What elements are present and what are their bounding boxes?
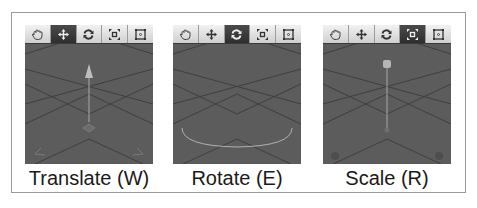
rect-transform-icon [134, 28, 147, 41]
hand-tool-button[interactable] [173, 25, 199, 43]
scale-gizmo-scene [323, 44, 451, 164]
transform-toolbar [25, 25, 153, 44]
hand-tool-button[interactable] [25, 25, 51, 43]
rotate-arrows-icon [82, 28, 95, 41]
scale-caption: Scale (R) [312, 166, 462, 190]
transform-toolbar [173, 25, 301, 44]
rect-transform-icon [282, 28, 295, 41]
rect-tool-button[interactable] [426, 25, 451, 43]
scale-icon [406, 28, 419, 41]
scale-icon [108, 28, 121, 41]
scale-gizmo[interactable] [331, 60, 443, 160]
rotate-gizmo[interactable] [182, 128, 292, 147]
move-arrows-icon [355, 28, 368, 41]
move-arrows-icon [205, 28, 218, 41]
translate-gizmo[interactable] [35, 64, 143, 155]
rotate-tool-button[interactable] [77, 25, 103, 43]
rotate-caption: Rotate (E) [162, 166, 312, 190]
translate-caption: Translate (W) [14, 166, 164, 190]
scale-tool-button[interactable] [400, 25, 426, 43]
scale-viewport-panel [323, 25, 451, 164]
move-tool-button[interactable] [349, 25, 375, 43]
hand-icon [31, 28, 44, 41]
scale-tool-button[interactable] [102, 25, 128, 43]
scale-tool-button[interactable] [250, 25, 276, 43]
scene-viewport[interactable] [323, 44, 451, 164]
scale-icon [256, 28, 269, 41]
rotate-arrows-icon [230, 28, 243, 41]
rotate-viewport-panel [173, 25, 301, 164]
transform-toolbar [323, 25, 451, 44]
scene-viewport[interactable] [25, 44, 153, 164]
move-arrows-icon [57, 28, 70, 41]
ground-grid [173, 44, 301, 164]
move-tool-button[interactable] [199, 25, 225, 43]
rect-tool-button[interactable] [276, 25, 301, 43]
hand-tool-button[interactable] [323, 25, 349, 43]
rotate-gizmo-scene [173, 44, 301, 164]
rotate-arrows-icon [380, 28, 393, 41]
rotate-tool-button[interactable] [375, 25, 401, 43]
hand-icon [329, 28, 342, 41]
rotate-tool-button[interactable] [225, 25, 251, 43]
rect-transform-icon [432, 28, 445, 41]
rect-tool-button[interactable] [128, 25, 153, 43]
scene-viewport[interactable] [173, 44, 301, 164]
translate-viewport-panel [25, 25, 153, 164]
hand-icon [179, 28, 192, 41]
translate-gizmo-scene [25, 44, 153, 164]
move-tool-button[interactable] [51, 25, 77, 43]
